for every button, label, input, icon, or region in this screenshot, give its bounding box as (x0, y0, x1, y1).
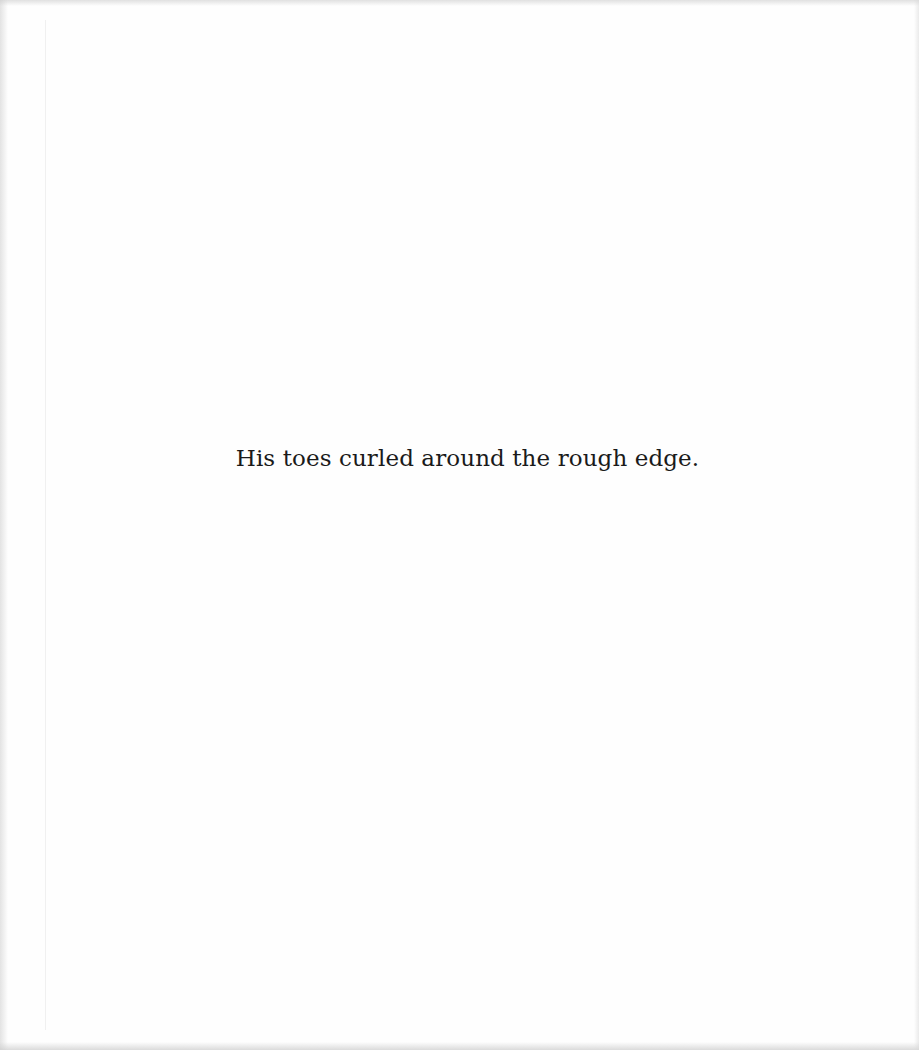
scan-edge-top (0, 0, 919, 6)
book-page: His toes curled around the rough edge. (0, 0, 919, 1050)
scan-edge-left (0, 0, 8, 1050)
scan-edge-right (914, 0, 919, 1050)
scan-edge-bottom (0, 1042, 919, 1050)
page-text-line: His toes curled around the rough edge. (0, 442, 919, 474)
page-gutter-line (45, 20, 46, 1030)
